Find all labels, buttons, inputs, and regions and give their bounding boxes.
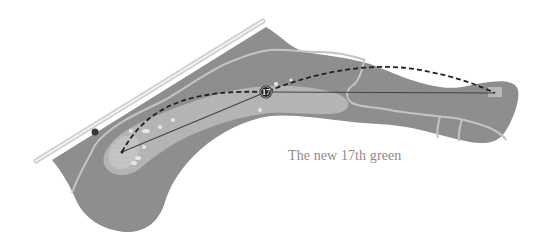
caption: The new 17th green xyxy=(288,148,401,164)
rough-area xyxy=(52,27,518,232)
golf-hole-diagram: 17 xyxy=(0,0,540,248)
hole-number: 17 xyxy=(262,88,270,97)
hole-marker: 17 xyxy=(260,86,273,99)
tree-icon xyxy=(92,129,99,136)
tee-box xyxy=(488,87,502,97)
pin-icon xyxy=(121,151,124,154)
